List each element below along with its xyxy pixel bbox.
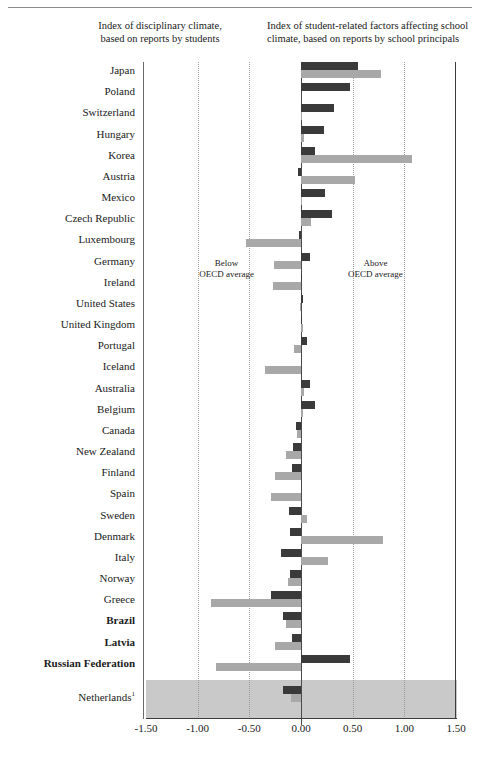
bar-ireland-series1: [301, 274, 302, 282]
gridline--1.00: [198, 62, 200, 719]
category-label-poland: Poland: [104, 86, 135, 97]
annotation-below-line2: OECD average: [199, 269, 254, 279]
category-label-australia: Australia: [95, 383, 135, 394]
bar-korea-series2: [301, 155, 412, 163]
category-label-greece: Greece: [104, 594, 135, 605]
bar-portugal-series2: [294, 345, 301, 353]
category-label-russian-federation: Russian Federation: [44, 658, 135, 669]
category-label-latvia: Latvia: [104, 637, 135, 648]
bar-finland-series2: [275, 472, 301, 480]
bar-luxembourg-series2: [246, 239, 301, 247]
legend-item-student-related-factors: Index of student-related factors affecti…: [253, 20, 478, 45]
bar-united-states-series2: [300, 303, 301, 311]
bar-netherlands-series1: [283, 686, 301, 694]
category-label-italy: Italy: [115, 552, 135, 563]
bar-iceland-series2: [265, 366, 301, 374]
bar-luxembourg-series1: [299, 231, 301, 239]
bar-ireland-series2: [273, 282, 301, 290]
category-label-brazil: Brazil: [106, 615, 135, 626]
annotation-below-line1: Below: [215, 258, 239, 268]
bar-portugal-series1: [301, 337, 307, 345]
category-label-belgium: Belgium: [97, 404, 135, 415]
bar-finland-series1: [292, 464, 301, 472]
category-label-ireland: Ireland: [104, 277, 135, 288]
category-label-portugal: Portugal: [98, 340, 135, 351]
footnote-marker: 1: [132, 690, 136, 698]
category-label-united-kingdom: United Kingdom: [61, 319, 135, 330]
category-label-mexico: Mexico: [101, 192, 135, 203]
annotation-below-oecd-average: Below OECD average: [187, 258, 267, 279]
bar-norway-series1: [290, 570, 301, 578]
legend-label-student-related-factors: Index of student-related factors affecti…: [267, 20, 475, 45]
bar-austria-series1: [298, 168, 301, 176]
x-axis: -1.50-1.00-0.500.000.501.001.50: [0, 722, 480, 742]
category-label-czech-republic: Czech Republic: [65, 213, 135, 224]
bar-norway-series2: [288, 578, 301, 586]
bar-australia-series2: [301, 388, 304, 396]
bar-belgium-series2: [301, 409, 303, 417]
bar-denmark-series1: [290, 528, 301, 536]
x-tick-label-0.50: 0.50: [330, 722, 376, 734]
category-label-denmark: Denmark: [94, 531, 135, 542]
category-label-switzerland: Switzerland: [82, 107, 135, 118]
cut-title: [8, 0, 472, 6]
bar-czech-republic-series2: [301, 218, 311, 226]
category-label-sweden: Sweden: [100, 510, 135, 521]
annotation-above-line1: Above: [363, 258, 387, 268]
bar-russian-federation-series2: [216, 663, 301, 671]
bar-mexico-series1: [301, 189, 325, 197]
bar-latvia-series1: [292, 634, 301, 642]
bar-brazil-series1: [283, 612, 301, 620]
plot-right-border: [455, 62, 456, 719]
bar-latvia-series2: [275, 642, 301, 650]
legend-swatch-dark: [62, 22, 71, 31]
legend-swatch-light: [253, 22, 262, 31]
top-rule: [8, 7, 472, 8]
category-label-new-zealand: New Zealand: [76, 446, 135, 457]
bar-greece-series2: [211, 599, 301, 607]
bar-canada-series2: [297, 430, 301, 438]
bar-united-kingdom-series1: [301, 316, 302, 324]
legend-label-line1: Index of student-related factors affecti…: [267, 20, 468, 31]
category-label-spain: Spain: [110, 488, 135, 499]
bar-italy-series2: [301, 557, 328, 565]
category-label-united-states: United States: [76, 298, 135, 309]
category-label-canada: Canada: [102, 425, 135, 436]
x-tick-label--0.50: -0.50: [226, 722, 272, 734]
annotation-above-line2: OECD average: [348, 269, 403, 279]
bar-spain-series2: [271, 493, 301, 501]
category-label-japan: Japan: [110, 65, 135, 76]
bar-mexico-series2: [301, 197, 302, 205]
category-label-iceland: Iceland: [103, 361, 135, 372]
legend-label-disciplinary-climate: Index of disciplinary climate, based on …: [76, 20, 244, 45]
bar-brazil-series2: [286, 620, 302, 628]
bar-germany-series1: [301, 253, 310, 261]
bar-australia-series1: [301, 380, 310, 388]
bar-austria-series2: [301, 176, 355, 184]
bar-netherlands-series2: [291, 694, 301, 702]
category-label-finland: Finland: [101, 467, 135, 478]
bar-united-states-series1: [301, 295, 303, 303]
bar-japan-series1: [301, 62, 358, 70]
bar-hungary-series1: [301, 126, 324, 134]
x-tick-label-1.00: 1.00: [381, 722, 427, 734]
bar-switzerland-series1: [301, 104, 334, 112]
bar-united-kingdom-series2: [301, 324, 303, 332]
legend-item-disciplinary-climate: Index of disciplinary climate, based on …: [62, 20, 247, 45]
bar-hungary-series2: [301, 134, 304, 142]
gridline--0.50: [249, 62, 251, 719]
bar-new-zealand-series1: [293, 443, 301, 451]
category-label-germany: Germany: [94, 256, 135, 267]
legend-label-line2: based on reports by students: [101, 33, 220, 44]
bar-sweden-series1: [289, 507, 301, 515]
bar-belgium-series1: [301, 401, 315, 409]
bar-czech-republic-series1: [301, 210, 332, 218]
x-tick-label--1.00: -1.00: [175, 722, 221, 734]
legend-label-line1: Index of disciplinary climate,: [98, 20, 222, 31]
x-tick-label--1.50: -1.50: [123, 722, 169, 734]
label-divider: [143, 62, 144, 719]
x-tick-label-1.50: 1.50: [433, 722, 479, 734]
bar-sweden-series2: [301, 515, 307, 523]
bar-canada-series1: [296, 422, 301, 430]
category-label-korea: Korea: [108, 150, 135, 161]
